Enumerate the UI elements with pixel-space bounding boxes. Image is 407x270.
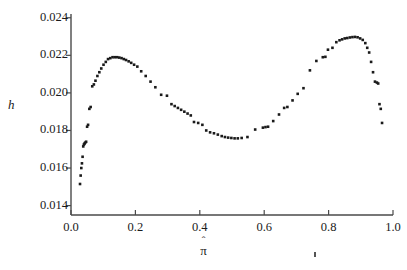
data-point (309, 69, 312, 72)
data-point (379, 108, 382, 111)
data-point (201, 124, 204, 127)
data-point (291, 99, 294, 102)
data-point (173, 105, 176, 108)
data-point (93, 83, 96, 86)
data-point (177, 107, 180, 110)
data-point (133, 63, 136, 66)
data-point (109, 57, 112, 60)
y-tick-label: 0.020 (8, 86, 68, 99)
x-tick-label: 1.0 (373, 221, 407, 234)
data-point (111, 56, 114, 59)
data-point (286, 106, 289, 109)
data-point (359, 37, 362, 40)
data-point (254, 128, 257, 131)
data-point (79, 183, 82, 186)
data-point (80, 167, 83, 170)
stray-artifact-mark (314, 252, 316, 257)
data-point (127, 60, 130, 63)
chart-figure: h ˆπ 0.0140.0160.0180.0200.0220.024 0.00… (0, 0, 407, 270)
data-point (338, 39, 341, 42)
data-point (381, 122, 384, 125)
data-point (227, 136, 230, 139)
data-point (331, 47, 334, 50)
data-point (262, 126, 265, 129)
data-point (197, 122, 200, 125)
y-tick-label: 0.024 (8, 11, 68, 24)
data-point (154, 86, 157, 89)
data-point (283, 107, 286, 110)
data-point (189, 114, 192, 117)
data-point (324, 56, 327, 59)
data-point (94, 79, 97, 82)
data-point (372, 71, 375, 74)
data-point (209, 131, 212, 134)
data-point (144, 75, 147, 78)
data-point (240, 137, 243, 140)
data-point (349, 36, 352, 39)
x-tick-label: 0.0 (51, 221, 91, 234)
data-point (166, 94, 169, 97)
data-point (79, 174, 82, 177)
data-point (85, 140, 88, 143)
data-point (267, 125, 270, 128)
data-point (104, 61, 107, 64)
y-axis-label: h (8, 98, 15, 111)
data-point (96, 75, 99, 78)
data-point (113, 56, 116, 59)
x-axis-label: ˆπ (0, 244, 407, 257)
data-point (327, 48, 330, 51)
data-point (149, 80, 152, 83)
x-tick-label: 0.2 (115, 221, 155, 234)
data-point (278, 113, 281, 116)
data-point (160, 93, 163, 96)
axis-lines (71, 14, 393, 215)
y-tick-label: 0.016 (8, 161, 68, 174)
data-point (130, 62, 133, 65)
x-tick-label: 0.8 (309, 221, 349, 234)
data-point (378, 103, 381, 106)
data-point (302, 87, 305, 90)
data-point (377, 82, 380, 85)
data-point (237, 137, 240, 140)
data-point (220, 135, 223, 138)
data-point (246, 136, 249, 139)
data-point (170, 103, 173, 106)
data-point (370, 61, 373, 64)
data-point (217, 133, 220, 136)
data-point (356, 36, 359, 39)
data-point (120, 57, 123, 60)
data-point (100, 67, 103, 70)
y-tick-label: 0.018 (8, 123, 68, 136)
data-point (186, 112, 189, 115)
data-point (335, 41, 338, 44)
data-point (233, 137, 236, 140)
data-point (140, 70, 143, 73)
data-point (315, 60, 318, 63)
data-point (224, 136, 227, 139)
data-point (368, 51, 371, 54)
data-point (341, 38, 344, 41)
data-point (351, 36, 354, 39)
data-point (98, 71, 101, 74)
y-tick-label: 0.022 (8, 48, 68, 61)
x-tick-label: 0.6 (244, 221, 284, 234)
data-point (87, 124, 90, 127)
data-point (272, 120, 275, 123)
data-point (102, 63, 105, 66)
data-point (180, 109, 183, 112)
data-point (136, 65, 139, 68)
data-point (89, 106, 92, 109)
data-point (296, 93, 299, 96)
data-point (125, 59, 128, 62)
y-tick-marks (66, 18, 71, 206)
data-point (364, 42, 367, 45)
data-point-group (79, 36, 384, 186)
data-point (81, 155, 84, 158)
x-axis-label-pi-group: ˆπ (200, 244, 207, 257)
x-tick-label: 0.4 (180, 221, 220, 234)
data-point (213, 132, 216, 135)
data-point (322, 56, 325, 59)
data-point (346, 37, 349, 40)
y-tick-label: 0.014 (8, 199, 68, 212)
x-tick-marks (71, 210, 393, 215)
